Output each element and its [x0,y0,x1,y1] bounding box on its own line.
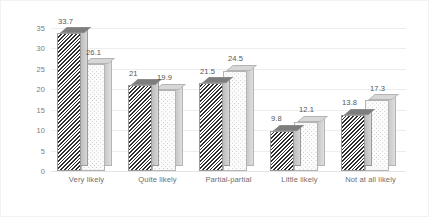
bar-front-face [270,131,294,171]
value-label-series-2-2: 24.5 [228,54,243,63]
bar-side-face [389,95,396,166]
bar-side-face [152,80,159,166]
x-tick-label-4: Not at all likely [345,175,396,184]
bar-side-face [105,59,112,166]
value-label-series-2-4: 17.3 [370,84,385,93]
y-tick-label-15: 15 [9,105,45,114]
gridline-0 [51,171,406,172]
bar-group: 9.812.1 [270,28,325,171]
value-label-series-2-3: 12.1 [299,105,314,114]
y-tick-label-25: 25 [9,64,45,73]
bar-front-face [128,85,152,171]
x-tick-label-2: Partial-partial [205,175,251,184]
bar-side-face [294,126,301,166]
bar-group: 13.817.3 [341,28,396,171]
x-tick-label-3: Little likely [281,175,317,184]
value-label-series-2-0: 26.1 [86,48,101,57]
bars-layer: 33.726.12119.921.524.59.812.113.817.3 [51,28,406,171]
y-tick-label-35: 35 [9,24,45,33]
value-label-series-1-3: 9.8 [271,114,282,123]
bar-side-face [223,78,230,166]
y-axis: 35302520151050 [1,28,45,171]
bar-front-face [57,33,81,171]
value-label-series-1-1: 21 [129,69,138,78]
bar-group: 2119.9 [128,28,183,171]
bar-series-1-1[interactable] [128,85,152,171]
bar-side-face [176,85,183,166]
value-label-series-2-1: 19.9 [157,73,172,82]
value-label-series-1-2: 21.5 [200,67,215,76]
y-tick-label-0: 0 [9,167,45,176]
x-tick-label-1: Quite likely [138,175,176,184]
x-tick-label-0: Very likely [69,175,104,184]
y-tick-label-20: 20 [9,85,45,94]
value-label-series-1-4: 13.8 [342,98,357,107]
y-tick-label-30: 30 [9,44,45,53]
value-label-series-1-0: 33.7 [58,17,73,26]
y-tick-label-5: 5 [9,146,45,155]
x-axis: Very likelyQuite likelyPartial-partialLi… [51,175,406,195]
y-tick-label-10: 10 [9,126,45,135]
bar-front-face [199,83,223,171]
bar-group: 21.524.5 [199,28,254,171]
bar-group: 33.726.1 [57,28,112,171]
bar-side-face [318,117,325,166]
bar-series-1-3[interactable] [270,131,294,171]
bar-series-1-4[interactable] [341,115,365,171]
bar-front-face [341,115,365,171]
chart-frame: 35302520151050 33.726.12119.921.524.59.8… [0,0,429,217]
bar-side-face [365,110,372,166]
bar-series-1-2[interactable] [199,83,223,171]
bar-side-face [247,66,254,166]
bar-series-1-0[interactable] [57,33,81,171]
